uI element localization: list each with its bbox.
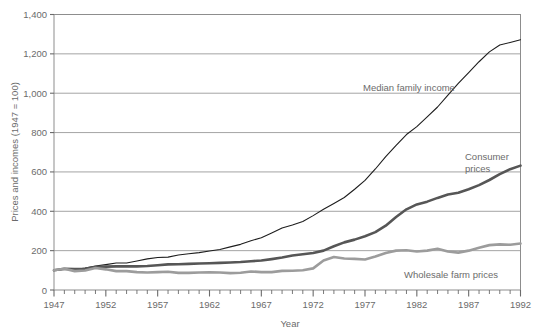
consumer-prices-label-line2: prices <box>465 163 491 174</box>
y-axis-ticks-group <box>50 15 54 291</box>
x-tick-label-1972: 1972 <box>303 299 324 310</box>
x-axis-title: Year <box>280 318 299 329</box>
y-tick-label-1200: 1,200 <box>23 48 47 59</box>
y-tick-label-1000: 1,000 <box>23 88 47 99</box>
x-axis-ticks-group <box>54 290 521 297</box>
data-series-group <box>54 40 521 273</box>
y-tick-label-0: 0 <box>42 285 47 296</box>
y-tick-label-800: 800 <box>31 127 47 138</box>
x-tick-label-1952: 1952 <box>95 299 116 310</box>
y-tick-label-400: 400 <box>31 206 47 217</box>
y-tick-label-600: 600 <box>31 166 47 177</box>
y-tick-label-200: 200 <box>31 245 47 256</box>
consumer-prices-label-line1: Consumer <box>465 151 509 162</box>
series-line-median-family-income <box>54 40 521 271</box>
prices-and-incomes-line-chart: 02004006008001,0001,2001,400 19471952195… <box>0 0 538 333</box>
y-axis-tick-labels-group: 02004006008001,0001,2001,400 <box>23 9 47 296</box>
median-family-income-label: Median family income <box>363 82 455 93</box>
wholesale-farm-prices-label: Wholesale farm prices <box>404 269 498 280</box>
x-tick-label-1947: 1947 <box>43 299 64 310</box>
series-line-consumer-prices <box>54 166 521 271</box>
x-tick-label-1962: 1962 <box>199 299 220 310</box>
x-tick-label-1977: 1977 <box>354 299 375 310</box>
x-tick-label-1967: 1967 <box>251 299 272 310</box>
y-tick-label-1400: 1,400 <box>23 9 47 20</box>
chart-container: 02004006008001,0001,2001,400 19471952195… <box>0 0 538 333</box>
x-tick-label-1992: 1992 <box>510 299 531 310</box>
y-axis-title: Prices and incomes (1947 = 100) <box>9 82 20 222</box>
x-tick-label-1982: 1982 <box>406 299 427 310</box>
x-axis-tick-labels-group: 1947195219571962196719721977198219871992 <box>43 299 531 310</box>
x-tick-label-1987: 1987 <box>458 299 479 310</box>
x-tick-label-1957: 1957 <box>147 299 168 310</box>
plot-frame <box>54 15 521 291</box>
